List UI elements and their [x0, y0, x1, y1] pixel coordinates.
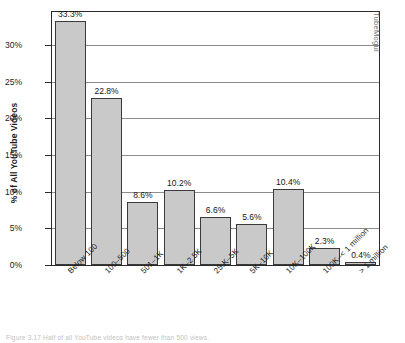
bar-value-label: 10.4%: [276, 177, 300, 187]
bar-value-label: 22.8%: [94, 86, 118, 96]
figure-caption: Figure 3.17 Half of all YouTube videos h…: [6, 334, 209, 341]
bar-value-label: 8.6%: [133, 190, 152, 200]
chart-figure: % of All YouTube Videos 33.3%22.8%8.6%10…: [0, 0, 405, 343]
watermark-label: TubeMogul: [372, 12, 381, 74]
gridline: [52, 45, 379, 46]
y-axis-title: % of All YouTube Videos: [9, 53, 19, 253]
bar-value-label: 5.6%: [242, 212, 261, 222]
bar-value-label: 2.3%: [315, 236, 334, 246]
plot-inner: 33.3%22.8%8.6%10.2%6.6%5.6%10.4%2.3%0.4%: [52, 12, 379, 265]
bar-value-label: 6.6%: [206, 205, 225, 215]
gridline: [52, 82, 379, 83]
bar-value-label: 33.3%: [58, 9, 82, 19]
bar-value-label: 10.2%: [167, 178, 191, 188]
y-tick-label: 30%: [5, 40, 22, 50]
bar: [55, 21, 86, 265]
y-tick-label: 0%: [10, 260, 22, 270]
bar: [91, 98, 122, 265]
plot-area: 33.3%22.8%8.6%10.2%6.6%5.6%10.4%2.3%0.4%: [51, 11, 380, 266]
